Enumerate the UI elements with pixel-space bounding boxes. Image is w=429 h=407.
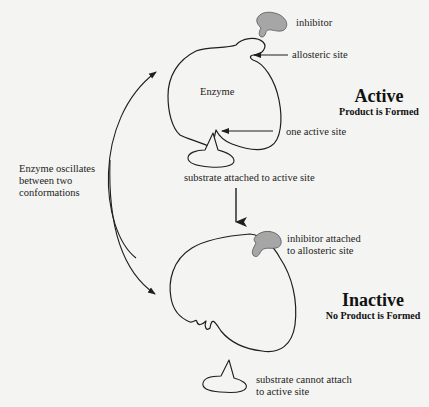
inactive-heading-block: Inactive No Product is Formed bbox=[318, 290, 428, 322]
inhibitor-attached-line1: inhibitor attached bbox=[287, 233, 407, 245]
substrate-attached-label: substrate attached to active site bbox=[184, 172, 315, 184]
active-site-label: one active site bbox=[286, 126, 346, 138]
allosteric-site-label: allosteric site bbox=[292, 49, 348, 61]
active-heading-block: Active Product is Formed bbox=[334, 86, 424, 118]
oscillation-note-line2: between two bbox=[19, 175, 109, 187]
inactive-heading: Inactive bbox=[318, 290, 428, 310]
oscillation-curved-arrow-down bbox=[110, 160, 155, 294]
inhibitor-label: inhibitor bbox=[296, 17, 332, 29]
substrate-detached-line1: substrate cannot attach bbox=[256, 374, 386, 386]
allosteric-inhibition-diagram bbox=[0, 0, 429, 407]
inhibitor-attached-line2: to allosteric site bbox=[287, 245, 407, 257]
substrate-detached-line2: to active site bbox=[256, 386, 386, 398]
oscillation-note: Enzyme oscillates between two conformati… bbox=[19, 163, 109, 199]
inactive-subheading: No Product is Formed bbox=[318, 310, 428, 322]
oscillation-note-line3: conformations bbox=[19, 187, 109, 199]
active-heading: Active bbox=[334, 86, 424, 106]
substrate-detached-shape bbox=[203, 360, 247, 393]
enzyme-outline-inactive bbox=[170, 234, 296, 352]
enzyme-label: Enzyme bbox=[200, 86, 234, 98]
oscillation-note-line1: Enzyme oscillates bbox=[19, 163, 109, 175]
inactive-state-group bbox=[170, 231, 296, 392]
substrate-attached-shape bbox=[188, 133, 234, 167]
active-subheading: Product is Formed bbox=[334, 106, 424, 118]
substrate-detached-label: substrate cannot attach to active site bbox=[256, 374, 386, 398]
inhibitor-attached-label: inhibitor attached to allosteric site bbox=[287, 233, 407, 257]
inhibitor-shape bbox=[257, 12, 287, 37]
